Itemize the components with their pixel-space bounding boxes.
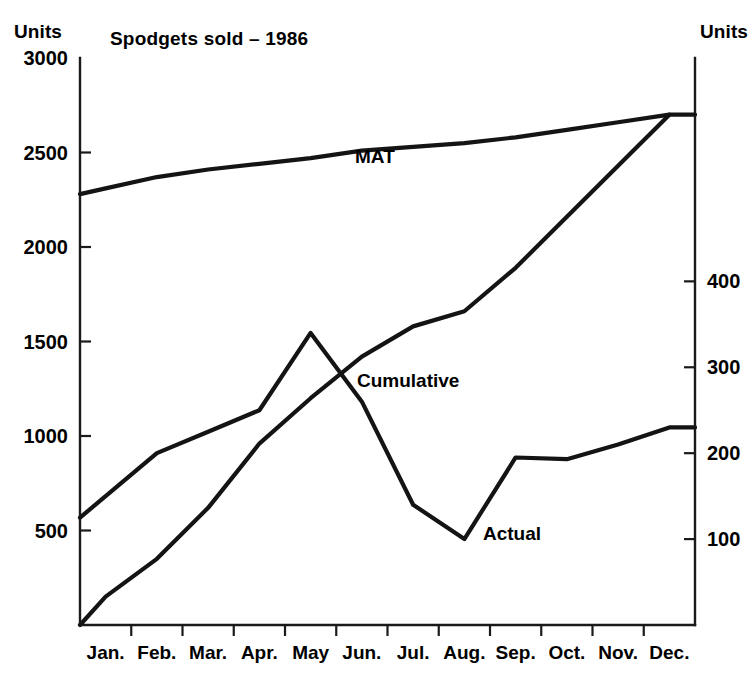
series-label-mat: MAT <box>355 146 395 167</box>
left-axis-tick-label: 500 <box>35 520 68 542</box>
left-axis-unit-label: Units <box>14 21 62 42</box>
right-axis-tick-label: 100 <box>707 528 740 550</box>
x-axis-month-label: Jul. <box>397 642 430 663</box>
left-axis-tick-label: 3000 <box>24 47 69 69</box>
right-axis-unit-label: Units <box>700 21 748 42</box>
x-axis-month-label: Jan. <box>87 642 125 663</box>
x-axis-month-label: Mar. <box>189 642 227 663</box>
x-axis-month-label: Feb. <box>137 642 176 663</box>
x-axis-month-label: Jun. <box>342 642 381 663</box>
x-axis-month-label: May <box>292 642 329 663</box>
x-axis-month-label: Apr. <box>241 642 278 663</box>
series-label-actual: Actual <box>483 523 541 544</box>
right-axis-tick-label: 400 <box>707 270 740 292</box>
series-label-cumulative: Cumulative <box>357 370 459 391</box>
axis-ticks-group <box>80 153 695 637</box>
left-axis-tick-label: 1000 <box>24 425 69 447</box>
x-axis-month-label: Oct. <box>548 642 585 663</box>
right-axis-tick-label: 200 <box>707 442 740 464</box>
chart-title: Spodgets sold – 1986 <box>110 28 308 49</box>
left-axis-tick-label: 1500 <box>24 331 69 353</box>
chart-canvas: Spodgets sold – 1986 Units Units MAT Cum… <box>0 0 754 700</box>
chart-figure: Spodgets sold – 1986 Units Units MAT Cum… <box>0 0 754 700</box>
right-axis-tick-labels: 100200300400 <box>707 270 740 550</box>
left-axis-tick-labels: 50010001500200025003000 <box>24 47 69 542</box>
right-axis-tick-label: 300 <box>707 356 740 378</box>
x-axis-month-label: Sep. <box>496 642 536 663</box>
x-axis-month-labels: Jan.Feb.Mar.Apr.MayJun.Jul.Aug.Sep.Oct.N… <box>87 642 690 663</box>
x-axis-month-label: Dec. <box>649 642 689 663</box>
left-axis-tick-label: 2000 <box>24 236 69 258</box>
x-axis-month-label: Nov. <box>598 642 638 663</box>
x-axis-month-label: Aug. <box>443 642 485 663</box>
left-axis-tick-label: 2500 <box>24 142 69 164</box>
data-line-actual <box>80 333 695 539</box>
